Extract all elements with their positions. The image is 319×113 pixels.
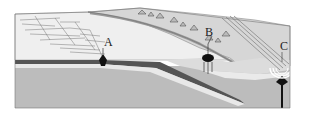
label-c: C: [280, 39, 288, 53]
plate-tectonics-diagram: A B C: [0, 0, 319, 113]
label-a: A: [104, 35, 113, 49]
label-b: B: [205, 25, 213, 39]
